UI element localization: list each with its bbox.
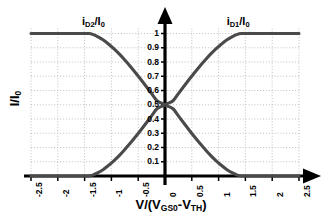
- x-tick-label: 1: [223, 192, 232, 197]
- chart-figure: -2.5-2-1.5-1-0.500.511.522.5 0.10.20.30.…: [0, 0, 331, 222]
- x-tick-label: 1.5: [249, 185, 258, 197]
- y-tick-label: 0.1: [134, 157, 159, 166]
- x-tick-label: 0: [169, 192, 178, 197]
- x-axis-title: V/(VGS0-VTH): [96, 198, 246, 211]
- y-tick-label: 0.4: [134, 115, 159, 124]
- id1-curve-label: iD1/I0: [227, 16, 250, 27]
- y-tick-label: 0.2: [134, 143, 159, 152]
- y-tick-label: 0.7: [134, 72, 159, 81]
- x-tick-label: 0.5: [196, 185, 205, 197]
- y-tick-label: 0.5: [134, 100, 159, 109]
- y-tick-label: 0.8: [134, 58, 159, 67]
- y-axis-arrowhead: [158, 7, 173, 24]
- x-tick-label: 2: [276, 192, 285, 197]
- y-tick-label: 0.9: [134, 43, 159, 52]
- x-axis-arrowhead: [303, 169, 321, 184]
- y-tick-label: 1: [134, 29, 159, 38]
- y-axis-title: I/I0: [8, 69, 21, 129]
- x-tick-label: -2: [62, 189, 71, 197]
- x-tick-label: -0.5: [142, 182, 151, 197]
- x-tick-label: -1: [115, 189, 124, 197]
- y-tick-label: 0.3: [134, 129, 159, 138]
- x-tick-label: -1.5: [89, 182, 98, 197]
- y-tick-label: 0.6: [134, 86, 159, 95]
- id2-curve-label: iD2/I0: [82, 16, 105, 27]
- chart-plot-area: [0, 0, 331, 222]
- x-tick-label: 2.5: [303, 185, 312, 197]
- x-tick-label: -2.5: [35, 182, 44, 197]
